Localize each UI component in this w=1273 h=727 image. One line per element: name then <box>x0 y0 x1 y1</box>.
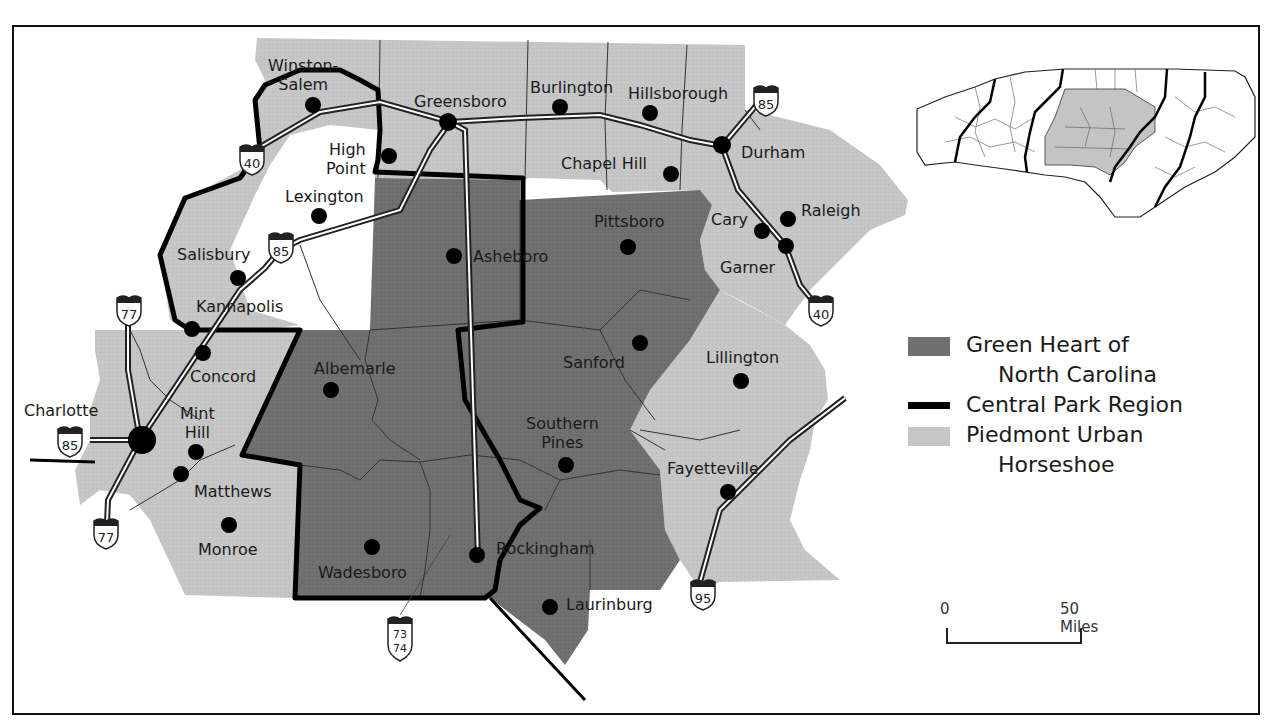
city-dot-wadesboro[interactable] <box>364 539 380 555</box>
scale-bar-line <box>946 628 1082 644</box>
legend-label-green-heart-2: North Carolina <box>998 360 1157 390</box>
city-dot-kannapolis[interactable] <box>184 321 200 337</box>
city-label-asheboro: Asheboro <box>473 247 548 266</box>
shield-i77-north[interactable]: 77 <box>117 296 141 326</box>
svg-text:74: 74 <box>393 642 407 655</box>
city-dot-burlington[interactable] <box>552 99 568 115</box>
svg-text:77: 77 <box>98 530 115 545</box>
city-dot-charlotte[interactable] <box>128 426 156 454</box>
city-label-laurinburg: Laurinburg <box>566 595 653 614</box>
legend-item-central-park: Central Park Region <box>908 390 1248 420</box>
city-label-hillsborough: Hillsborough <box>628 84 728 103</box>
city-dot-winston-salem[interactable] <box>305 97 321 113</box>
city-label-lexington: Lexington <box>285 187 364 206</box>
shield-i85-salisbury[interactable]: 85 <box>269 233 293 263</box>
city-label-southern-pines: SouthernPines <box>526 414 599 452</box>
legend-label-green-heart-1: Green Heart of <box>966 330 1129 360</box>
swatch-green-heart <box>908 337 950 356</box>
city-dot-sanford[interactable] <box>632 335 648 351</box>
city-label-fayetteville: Fayetteville <box>667 459 759 478</box>
city-dot-lexington[interactable] <box>311 208 327 224</box>
city-label-high-point: HighPoint <box>326 140 366 178</box>
map-legend: Green Heart of North Carolina Central Pa… <box>908 330 1248 480</box>
svg-text:85: 85 <box>273 244 290 259</box>
shield-i40-east[interactable]: 40 <box>809 296 833 326</box>
city-dot-concord[interactable] <box>195 345 211 361</box>
legend-item-piedmont: Piedmont Urban Horseshoe <box>908 420 1248 480</box>
city-label-chapel-hill: Chapel Hill <box>561 154 647 173</box>
shield-i95[interactable]: 95 <box>691 580 715 610</box>
city-dot-durham[interactable] <box>713 136 731 154</box>
city-dot-lillington[interactable] <box>733 373 749 389</box>
city-dot-high-point[interactable] <box>381 148 397 164</box>
svg-text:85: 85 <box>62 438 79 453</box>
legend-label-piedmont-2: Horseshoe <box>998 450 1114 480</box>
legend-item-green-heart: Green Heart of North Carolina <box>908 330 1248 390</box>
city-dot-monroe[interactable] <box>221 517 237 533</box>
svg-text:40: 40 <box>244 156 261 171</box>
inset-nc-map <box>917 69 1255 217</box>
city-label-lillington: Lillington <box>706 348 779 367</box>
city-dot-laurinburg[interactable] <box>542 599 558 615</box>
swatch-piedmont <box>908 427 950 446</box>
city-label-salisbury: Salisbury <box>177 245 251 264</box>
city-label-raleigh: Raleigh <box>801 201 861 220</box>
city-label-cary: Cary <box>711 210 748 229</box>
city-dot-salisbury[interactable] <box>230 270 246 286</box>
shield-i77-south[interactable]: 77 <box>94 519 118 549</box>
city-dot-albemarle[interactable] <box>323 382 339 398</box>
city-label-matthews: Matthews <box>194 482 272 501</box>
city-dot-pittsboro[interactable] <box>620 239 636 255</box>
city-dot-fayetteville[interactable] <box>720 484 736 500</box>
city-dot-chapel-hill[interactable] <box>663 166 679 182</box>
svg-text:77: 77 <box>121 307 138 322</box>
city-dot-mint-hill[interactable] <box>188 444 204 460</box>
city-dot-asheboro[interactable] <box>446 248 462 264</box>
city-label-greensboro: Greensboro <box>414 92 507 111</box>
city-label-garner: Garner <box>720 258 775 277</box>
svg-text:85: 85 <box>758 97 775 112</box>
city-label-pittsboro: Pittsboro <box>594 212 665 231</box>
city-label-wadesboro: Wadesboro <box>318 563 407 582</box>
city-label-concord: Concord <box>190 367 256 386</box>
city-label-mint-hill: MintHill <box>180 404 215 442</box>
city-dot-garner[interactable] <box>778 238 794 254</box>
city-label-monroe: Monroe <box>198 540 258 559</box>
city-label-albemarle: Albemarle <box>314 359 396 378</box>
boundary-tail-west <box>30 460 95 462</box>
city-dot-matthews[interactable] <box>173 466 189 482</box>
legend-label-central-park: Central Park Region <box>966 390 1183 420</box>
city-dot-rockingham[interactable] <box>469 547 485 563</box>
city-dot-cary[interactable] <box>754 223 770 239</box>
city-label-sanford: Sanford <box>563 353 625 372</box>
city-label-rockingham: Rockingham <box>496 539 595 558</box>
swatch-central-park-line <box>908 402 950 409</box>
scale-start-label: 0 <box>940 600 950 618</box>
scale-bar: 0 50 Miles <box>940 600 1090 650</box>
legend-label-piedmont-1: Piedmont Urban <box>966 420 1143 450</box>
city-label-charlotte: Charlotte <box>24 401 98 420</box>
shield-i40-west[interactable]: 40 <box>240 145 264 175</box>
city-dot-southern-pines[interactable] <box>558 457 574 473</box>
city-label-kannapolis: Kannapolis <box>196 297 283 316</box>
svg-text:73: 73 <box>393 628 407 641</box>
city-label-burlington: Burlington <box>530 78 613 97</box>
city-dot-greensboro[interactable] <box>439 113 457 131</box>
svg-text:40: 40 <box>813 307 830 322</box>
city-dot-raleigh[interactable] <box>780 211 796 227</box>
shield-i85-north[interactable]: 85 <box>754 86 778 116</box>
city-dot-hillsborough[interactable] <box>642 105 658 121</box>
shield-i73-74[interactable]: 73 74 <box>388 617 412 661</box>
svg-text:95: 95 <box>695 591 712 606</box>
city-label-winston-salem: Winston-Salem <box>268 56 338 94</box>
city-label-durham: Durham <box>741 143 805 162</box>
shield-i85-charlotte[interactable]: 85 <box>58 427 82 457</box>
